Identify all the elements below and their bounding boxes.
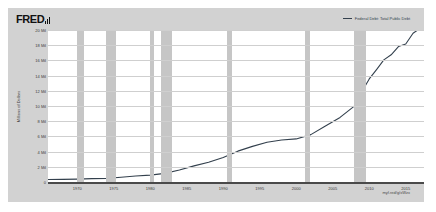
y-axis-tick-label: 16 Mil — [12, 58, 46, 63]
fred-chart-screenshot: FRED Federal Debt: Total Public Debt Mil… — [0, 0, 436, 212]
legend-color-swatch — [343, 18, 352, 19]
y-axis-tick-label: 8 Mil — [12, 119, 46, 124]
gridline-horizontal — [48, 152, 424, 153]
y-axis-tick-label: 4 Mil — [12, 149, 46, 154]
x-axis-tick-label: 2000 — [292, 186, 301, 191]
legend-label: Federal Debt: Total Public Debt — [355, 16, 410, 21]
x-axis-tick-label: 1980 — [146, 186, 155, 191]
y-axis-tick-label: 10 Mil — [12, 104, 46, 109]
source-url: myf.red/g/xWzx — [382, 190, 410, 195]
y-axis-tick-label: 20 Mil — [12, 28, 46, 33]
fred-logo-text: FRED — [16, 14, 44, 25]
gridline-horizontal — [48, 121, 424, 122]
gridline-horizontal — [48, 45, 424, 46]
y-axis-tick-label: 18 Mil — [12, 43, 46, 48]
fred-logo[interactable]: FRED — [16, 14, 50, 25]
gridline-horizontal — [48, 76, 424, 77]
y-axis-tick-label: 6 Mil — [12, 134, 46, 139]
y-axis-tick-label: 14 Mil — [12, 73, 46, 78]
gridline-horizontal — [48, 167, 424, 168]
gridline-horizontal — [48, 30, 424, 31]
plot-canvas — [48, 30, 424, 182]
y-axis-tick-label: 0 — [12, 180, 46, 185]
y-axis-tick-label: 2 Mil — [12, 164, 46, 169]
x-axis-tick-label: 1970 — [73, 186, 82, 191]
x-axis-tick-label: 2005 — [328, 186, 337, 191]
gridline-horizontal — [48, 106, 424, 107]
y-axis-tick-label: 12 Mil — [12, 88, 46, 93]
bar-chart-icon — [45, 17, 50, 25]
gridline-horizontal — [48, 136, 424, 137]
x-axis-tick-label: 2010 — [365, 186, 374, 191]
x-axis-line — [48, 182, 424, 184]
x-axis-tick-label: 1990 — [219, 186, 228, 191]
chart-legend[interactable]: Federal Debt: Total Public Debt — [343, 16, 410, 21]
x-axis-tick-label: 1985 — [182, 186, 191, 191]
x-axis-tick-label: 1995 — [255, 186, 264, 191]
plot-area: 20 Mil18 Mil16 Mil14 Mil12 Mil10 Mil8 Mi… — [48, 30, 424, 182]
x-axis-tick-label: 1975 — [109, 186, 118, 191]
gridline-horizontal — [48, 60, 424, 61]
gridline-horizontal — [48, 91, 424, 92]
fred-chart-panel: FRED Federal Debt: Total Public Debt Mil… — [8, 8, 424, 202]
